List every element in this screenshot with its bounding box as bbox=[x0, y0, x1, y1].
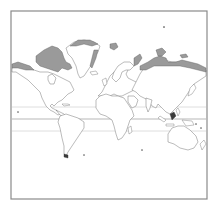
pacific-island-dot bbox=[18, 112, 19, 113]
falklands-dot bbox=[84, 155, 85, 156]
map-canvas bbox=[0, 0, 220, 209]
java bbox=[166, 124, 174, 126]
pacific-island-dot-3 bbox=[201, 128, 202, 129]
indian-ocean-island-dot bbox=[142, 150, 143, 151]
arctic-island-dot bbox=[163, 26, 164, 27]
world-map bbox=[0, 0, 220, 209]
pacific-island-dot-2 bbox=[196, 124, 197, 125]
